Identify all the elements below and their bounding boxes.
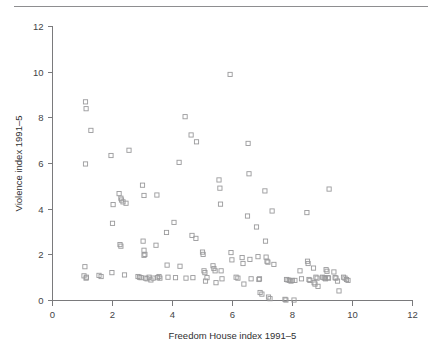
- x-tick-label: 2: [110, 309, 115, 320]
- data-point-marker: [173, 276, 177, 280]
- y-tick-label: 4: [38, 204, 43, 215]
- x-tick-label: 12: [407, 309, 418, 320]
- data-point-marker: [166, 275, 170, 279]
- data-point-marker: [140, 183, 144, 187]
- data-point-marker: [245, 214, 249, 218]
- x-tick-label: 0: [50, 309, 55, 320]
- data-point-marker: [83, 265, 87, 269]
- y-tick-label: 10: [33, 67, 44, 78]
- data-markers-group: [82, 72, 350, 302]
- scatter-plot-figure: 024681012024681012Freedom House index 19…: [0, 0, 434, 355]
- data-point-marker: [230, 258, 234, 262]
- data-point-marker: [247, 172, 251, 176]
- x-tick-label: 6: [230, 309, 235, 320]
- data-point-marker: [191, 276, 195, 280]
- y-axis-title: Violence index 1991–5: [13, 116, 24, 212]
- data-point-marker: [127, 148, 131, 152]
- data-point-marker: [84, 107, 88, 111]
- data-point-marker: [220, 277, 224, 281]
- data-point-marker: [254, 225, 258, 229]
- y-tick-label: 2: [38, 249, 43, 260]
- data-point-marker: [189, 133, 193, 137]
- data-point-marker: [109, 153, 113, 157]
- data-point-marker: [117, 192, 121, 196]
- data-point-marker: [172, 220, 176, 224]
- axis-labels-group: 024681012024681012Freedom House index 19…: [13, 21, 418, 341]
- axes-group: [48, 27, 413, 306]
- data-point-marker: [177, 160, 181, 164]
- data-point-marker: [124, 201, 128, 205]
- x-tick-label: 8: [290, 309, 295, 320]
- data-point-marker: [228, 72, 232, 76]
- data-point-marker: [263, 189, 267, 193]
- data-point-marker: [248, 257, 252, 261]
- data-point-marker: [219, 269, 223, 273]
- data-point-marker: [111, 203, 115, 207]
- x-tick-label: 4: [170, 309, 175, 320]
- data-point-marker: [110, 271, 114, 275]
- data-point-marker: [218, 202, 222, 206]
- data-point-marker: [164, 230, 168, 234]
- data-point-marker: [142, 248, 146, 252]
- y-tick-label: 6: [38, 158, 43, 169]
- data-point-marker: [155, 193, 159, 197]
- data-point-marker: [183, 115, 187, 119]
- data-point-marker: [240, 255, 244, 259]
- x-axis-title: Freedom House index 1991–5: [169, 330, 297, 341]
- data-point-marker: [184, 276, 188, 280]
- data-point-marker: [142, 193, 146, 197]
- data-point-marker: [249, 277, 253, 281]
- data-point-marker: [264, 255, 268, 259]
- data-point-marker: [337, 289, 341, 293]
- data-point-marker: [241, 261, 245, 265]
- data-point-marker: [141, 239, 145, 243]
- data-point-marker: [178, 264, 182, 268]
- data-point-marker: [218, 186, 222, 190]
- plot-canvas: 024681012024681012Freedom House index 19…: [0, 0, 434, 355]
- data-point-marker: [327, 187, 331, 191]
- data-point-marker: [246, 141, 250, 145]
- data-point-marker: [154, 243, 158, 247]
- data-point-marker: [298, 269, 302, 273]
- data-point-marker: [263, 239, 267, 243]
- data-point-marker: [299, 277, 303, 281]
- data-point-marker: [332, 270, 336, 274]
- data-point-marker: [165, 263, 169, 267]
- data-point-marker: [217, 178, 221, 182]
- data-point-marker: [110, 221, 114, 225]
- x-tick-label: 10: [347, 309, 358, 320]
- data-point-marker: [83, 100, 87, 104]
- y-tick-label: 0: [38, 295, 43, 306]
- data-point-marker: [89, 128, 93, 132]
- data-point-marker: [194, 140, 198, 144]
- data-point-marker: [83, 162, 87, 166]
- data-point-marker: [272, 262, 276, 266]
- data-point-marker: [122, 273, 126, 277]
- y-tick-label: 12: [33, 21, 44, 32]
- data-point-marker: [214, 281, 218, 285]
- data-point-marker: [311, 266, 315, 270]
- y-tick-label: 8: [38, 112, 43, 123]
- data-point-marker: [256, 255, 260, 259]
- data-point-marker: [266, 295, 270, 299]
- data-point-marker: [305, 210, 309, 214]
- data-point-marker: [242, 282, 246, 286]
- data-point-marker: [229, 250, 233, 254]
- data-point-marker: [270, 209, 274, 213]
